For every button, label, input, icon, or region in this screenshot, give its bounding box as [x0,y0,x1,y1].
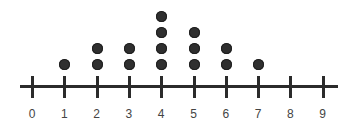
tick-mark [160,76,163,98]
tick-label: 7 [248,107,268,121]
tick-mark [128,76,131,98]
data-dot [253,59,264,70]
tick-label: 4 [151,107,171,121]
data-dot [189,59,200,70]
tick-label: 5 [184,107,204,121]
tick-label: 2 [87,107,107,121]
data-dot [156,11,167,22]
tick-label: 9 [313,107,333,121]
data-dot [156,27,167,38]
data-dot [189,43,200,54]
tick-mark [31,76,34,98]
data-dot [221,59,232,70]
data-dot [59,59,70,70]
tick-mark [257,76,260,98]
dot-plot: 0123456789 [0,0,355,128]
tick-mark [63,76,66,98]
tick-label: 8 [280,107,300,121]
data-dot [221,43,232,54]
tick-mark [225,76,228,98]
data-dot [156,59,167,70]
tick-mark [322,76,325,98]
tick-mark [289,76,292,98]
data-dot [124,59,135,70]
tick-label: 0 [22,107,42,121]
data-dot [124,43,135,54]
data-dot [92,43,103,54]
data-dot [92,59,103,70]
data-dot [156,43,167,54]
data-dot [189,27,200,38]
tick-mark [96,76,99,98]
tick-label: 6 [216,107,236,121]
tick-label: 3 [119,107,139,121]
tick-mark [193,76,196,98]
tick-label: 1 [54,107,74,121]
